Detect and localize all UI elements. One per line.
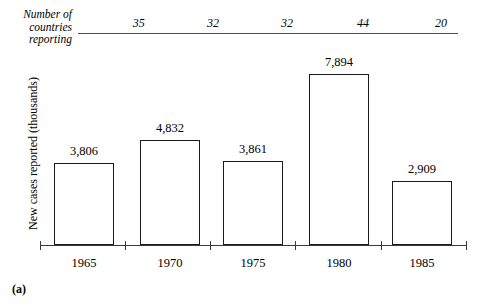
x-axis-label-1975: 1975 (241, 256, 266, 271)
countries-reporting-label-line-3: reporting (2, 33, 72, 46)
x-axis-tick (295, 241, 296, 250)
x-axis-tick (40, 241, 41, 250)
x-axis-tick (125, 241, 126, 250)
x-axis-tick (210, 241, 211, 250)
bar-1965 (54, 163, 114, 245)
figure-bar-chart: Number of countries reporting 35 32 32 4… (0, 0, 477, 307)
x-axis-label-1980: 1980 (327, 256, 352, 271)
bar-1985 (392, 181, 452, 245)
figure-caption: (a) (12, 282, 26, 297)
bar-value-1970: 4,832 (156, 121, 184, 136)
countries-reporting-label-line-1: Number of (2, 8, 72, 21)
countries-reporting-label: Number of countries reporting (2, 8, 72, 46)
bar-1970 (140, 140, 200, 245)
x-axis-label-1970: 1970 (158, 256, 183, 271)
bar-1975 (223, 161, 283, 245)
countries-value-1965: 35 (133, 16, 145, 31)
countries-value-1975: 32 (281, 16, 293, 31)
countries-value-1985: 20 (435, 16, 447, 31)
x-axis-label-1965: 1965 (72, 256, 97, 271)
plot-area: 3,806 4,832 3,861 7,894 2,909 1965 1970 … (40, 46, 467, 246)
countries-reporting-rule (78, 33, 458, 34)
countries-value-1980: 44 (357, 16, 369, 31)
countries-reporting-values: 35 32 32 44 20 (78, 16, 458, 32)
bar-value-1980: 7,894 (325, 55, 353, 70)
x-axis-line (40, 245, 467, 246)
bar-1980 (309, 74, 369, 245)
x-axis-tick (381, 241, 382, 250)
bar-value-1975: 3,861 (239, 142, 267, 157)
y-axis-title: New cases reported (thousands) (26, 64, 41, 244)
countries-reporting-label-line-2: countries (2, 21, 72, 34)
x-axis-label-1985: 1985 (410, 256, 435, 271)
bar-value-1965: 3,806 (70, 144, 98, 159)
bar-value-1985: 2,909 (408, 162, 436, 177)
countries-value-1970: 32 (207, 16, 219, 31)
x-axis-tick (466, 241, 467, 250)
